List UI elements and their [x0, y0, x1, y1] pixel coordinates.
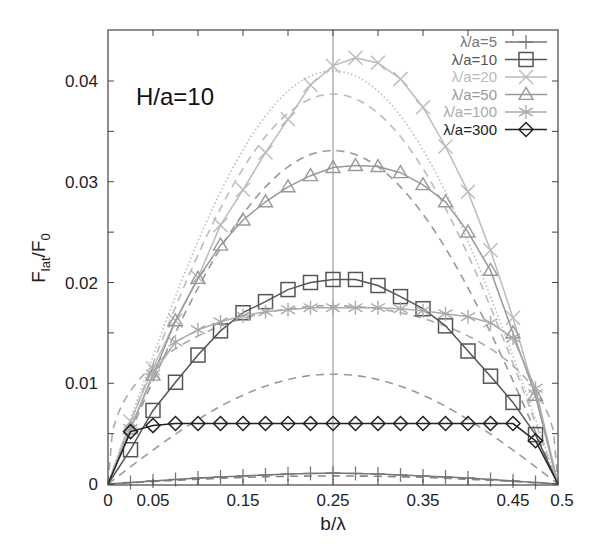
y-axis-title: Flat/F0: [28, 233, 53, 282]
legend-label: λ/a=10: [452, 51, 497, 68]
y-tick-label: 0.01: [65, 374, 98, 393]
y-tick-labels: 00.010.020.030.04: [65, 72, 98, 494]
x-tick-label: 0.25: [316, 491, 349, 510]
y-tick-label: 0: [89, 475, 98, 494]
x-tick-labels: 00.050.150.250.350.450.5: [103, 491, 574, 510]
annotation-h-over-a: H/a=10: [136, 83, 214, 110]
legend-label: λ/a=300: [443, 121, 497, 138]
x-tick-label: 0: [103, 491, 112, 510]
chart: 00.050.150.250.350.450.5 00.010.020.030.…: [0, 0, 592, 554]
x-tick-label: 0.5: [550, 491, 574, 510]
x-tick-label: 0.45: [496, 491, 529, 510]
legend-label: λ/a=20: [452, 68, 497, 85]
y-tick-label: 0.02: [65, 274, 98, 293]
legend: λ/a=5λ/a=10λ/a=20λ/a=50λ/a=100λ/a=300: [443, 33, 547, 138]
x-axis-title: b/λ: [320, 513, 346, 534]
series---a-5: [108, 466, 558, 490]
x-tick-label: 0.05: [136, 491, 169, 510]
y-tick-label: 0.04: [65, 72, 98, 91]
y-tick-label: 0.03: [65, 173, 98, 192]
legend-label: λ/a=5: [460, 33, 497, 50]
x-tick-label: 0.35: [406, 491, 439, 510]
legend-label: λ/a=100: [443, 103, 497, 120]
legend-label: λ/a=50: [452, 86, 497, 103]
x-tick-label: 0.15: [226, 491, 259, 510]
